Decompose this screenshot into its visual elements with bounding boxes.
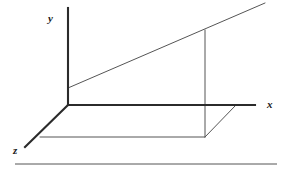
z-axis-label: z xyxy=(12,144,18,156)
figure-container: y x z xyxy=(0,0,288,177)
x-axis-label: x xyxy=(266,98,273,110)
figure-background xyxy=(0,0,288,177)
coordinate-axes-figure: y x z xyxy=(0,0,288,177)
y-axis-label: y xyxy=(46,12,53,24)
